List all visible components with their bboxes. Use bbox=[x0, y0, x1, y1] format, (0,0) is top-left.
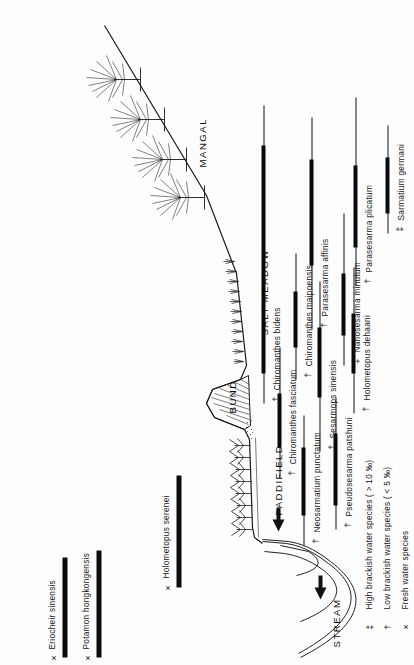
symbol-holometopus-serenei: × bbox=[162, 585, 172, 590]
symbol-chiromanthes-fasciatum: † bbox=[286, 470, 296, 475]
species-label-parasesarma-affinis: Parasesarma affinis bbox=[319, 238, 329, 316]
species-label-sesarmops-sinensis: Sesarmops sinensis bbox=[327, 359, 337, 438]
figure-canvas: STREAM PADDIFIELD BUND SALT MEADOW MANGA… bbox=[0, 0, 414, 665]
species-label-holometopus-serenei: Holometopus serenei bbox=[160, 495, 170, 578]
symbol-chiromanthes-bidens: † bbox=[270, 396, 280, 401]
symbol-sesarmops-sinensis: † bbox=[326, 444, 336, 449]
legend-text-low-brackish: Low brackish water species ( < 5 ‰) bbox=[382, 466, 391, 609]
symbol-pseudosesarma-patshuni: † bbox=[342, 522, 352, 527]
range-bar-holometopus-serenei bbox=[176, 475, 181, 587]
symbol-nanosesarma-minutum: ‡ bbox=[350, 358, 360, 363]
species-label-eriocheir-sinensis: Eriocheir sinensis bbox=[46, 579, 56, 649]
habitat-label-mangal: MANGAL bbox=[196, 117, 207, 167]
species-label-sarmatium-germani: Sarmatium germani bbox=[395, 143, 405, 220]
range-core-chiromanthes-bidens bbox=[261, 145, 265, 373]
species-label-chiromanthes-fasciatum: Chiromanthes fasciatum bbox=[287, 369, 297, 464]
species-label-pseudosesarma-patshuni: Pseudosesarma patshuni bbox=[343, 417, 353, 516]
symbol-neosarmatium-punctatum: † bbox=[310, 538, 320, 543]
rotated-figure: STREAM PADDIFIELD BUND SALT MEADOW MANGA… bbox=[0, 0, 414, 665]
symbol-potamon-hongkongensis: × bbox=[82, 655, 92, 660]
symbol-parasesarma-plicatum: † bbox=[362, 278, 372, 283]
habitat-label-paddifield: PADDIFIELD bbox=[272, 444, 283, 515]
symbol-holometopus-dehaani: † bbox=[360, 406, 370, 411]
species-label-chiromanthes-bidens: Chiromanthes bidens bbox=[271, 307, 281, 390]
species-label-holometopus-dehaani: Holometopus dehaani bbox=[361, 315, 371, 400]
habitat-label-stream: STREAM bbox=[330, 598, 341, 647]
species-label-parasesarma-plicatum: Parasesarma plicatum bbox=[363, 184, 373, 272]
legend-symbol-fresh: × bbox=[400, 624, 410, 629]
range-core-neosarmatium-punctatum bbox=[301, 447, 305, 515]
range-core-sesarmops-sinensis bbox=[317, 327, 321, 397]
species-label-potamon-hongkongensis: Potamon hongkongensis bbox=[80, 552, 90, 649]
range-bar-eriocheir-sinensis bbox=[62, 557, 67, 657]
symbol-parasesarma-affinis: † bbox=[318, 322, 328, 327]
legend-text-high-brackish: High brackish water species ( > 10 ‰) bbox=[364, 459, 373, 609]
symbol-eriocheir-sinensis: × bbox=[48, 655, 58, 660]
symbol-sarmatium-germani: ‡ bbox=[394, 226, 404, 231]
range-core-parasesarma-affinis bbox=[309, 159, 313, 265]
range-core-parasesarma-plicatum bbox=[353, 165, 357, 247]
legend-text-fresh: Fresh water species bbox=[400, 530, 409, 609]
habitat-label-bund: BUND bbox=[226, 380, 237, 413]
range-core-nanosesarma-minutum bbox=[341, 273, 345, 335]
legend-symbol-low-brackish: † bbox=[382, 624, 392, 629]
legend-symbol-high-brackish: ‡ bbox=[364, 624, 374, 629]
range-core-chiromanthes-maipoensis bbox=[293, 291, 297, 347]
range-bar-potamon-hongkongensis bbox=[96, 550, 101, 657]
range-core-sarmatium-germani bbox=[385, 157, 389, 213]
symbol-chiromanthes-maipoensis: † bbox=[302, 372, 312, 377]
